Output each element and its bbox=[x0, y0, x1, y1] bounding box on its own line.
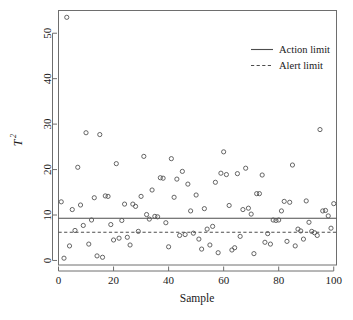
chart-canvas: 01020304050 020406080100 T 2 Sample Acti… bbox=[0, 0, 353, 320]
legend-label-alert-limit: Alert limit bbox=[279, 60, 323, 71]
legend-label-action-limit: Action limit bbox=[279, 44, 330, 55]
y-tick-label: 0 bbox=[41, 257, 53, 263]
x-tick-label: 0 bbox=[56, 274, 62, 286]
y-tick-label: 50 bbox=[41, 27, 53, 39]
y-tick-label: 20 bbox=[41, 164, 53, 176]
y-tick-label: 40 bbox=[41, 73, 53, 85]
y-axis-title-exponent: 2 bbox=[9, 134, 18, 138]
x-axis-title: Sample bbox=[180, 292, 215, 305]
x-tick-label: 20 bbox=[108, 274, 120, 286]
t2-control-chart: 01020304050 020406080100 T 2 Sample Acti… bbox=[0, 0, 353, 320]
x-tick-label: 80 bbox=[273, 274, 285, 286]
x-tick-label: 40 bbox=[163, 274, 175, 286]
y-tick-label: 30 bbox=[41, 118, 53, 130]
y-tick-label: 10 bbox=[41, 209, 53, 221]
x-tick-label: 100 bbox=[325, 274, 342, 286]
x-tick-label: 60 bbox=[218, 274, 230, 286]
